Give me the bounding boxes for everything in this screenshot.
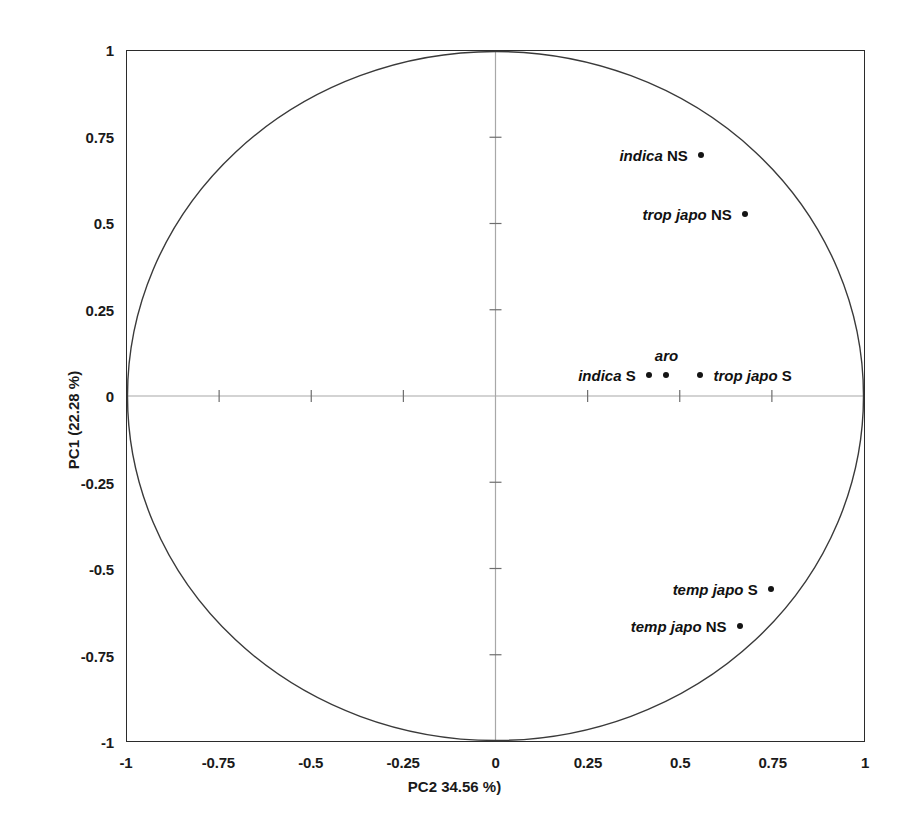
y-tick-label: 0.5	[94, 215, 114, 232]
x-tick-label: 1	[861, 754, 869, 771]
point-label-suffix: NS	[707, 205, 732, 222]
point-label-trop-japo-ns: trop japo NS	[643, 205, 732, 222]
point-label-indica-ns: indica NS	[619, 146, 687, 163]
data-point-temp-japo-ns	[737, 623, 743, 629]
point-label-taxon: aro	[655, 346, 678, 363]
point-label-suffix: S	[622, 366, 636, 383]
point-label-suffix: NS	[702, 618, 727, 635]
x-tick-label: -1	[120, 754, 133, 771]
y-tick-label: 0.75	[86, 128, 114, 145]
point-label-aro: aro	[655, 346, 678, 363]
x-tick-label: 0	[491, 754, 499, 771]
point-label-taxon: indica	[619, 146, 662, 163]
y-axis-title: PC1 (22.28 %)	[65, 370, 82, 468]
point-label-taxon: trop japo	[643, 205, 707, 222]
point-label-temp-japo-ns: temp japo NS	[631, 618, 727, 635]
point-label-suffix: S	[778, 366, 792, 383]
y-tick-label: 1	[106, 42, 114, 59]
y-tick-label: -1	[101, 734, 114, 751]
x-tick-label: 0.5	[670, 754, 690, 771]
point-label-trop-japo-s: trop japo S	[713, 366, 791, 383]
x-axis-title: PC2 34.56 %)	[0, 778, 909, 795]
point-label-suffix: S	[743, 581, 757, 598]
point-label-taxon: indica	[578, 366, 621, 383]
point-label-taxon: trop japo	[713, 366, 777, 383]
x-tick-label: -0.5	[298, 754, 323, 771]
point-label-indica-s: indica S	[578, 366, 636, 383]
y-tick-label: -0.75	[81, 647, 114, 664]
x-tick-label: 0.75	[758, 754, 786, 771]
pca-correlation-circle-figure: PC1 (22.28 %) 10.750.50.250-0.25-0.5-0.7…	[0, 0, 909, 839]
point-label-temp-japo-s: temp japo S	[673, 581, 758, 598]
plot-canvas	[127, 51, 864, 741]
data-point-trop-japo-ns	[742, 211, 748, 217]
point-label-suffix: NS	[663, 146, 688, 163]
data-point-indica-s	[646, 372, 652, 378]
x-tick-label: -0.75	[202, 754, 235, 771]
x-tick-label: -0.25	[387, 754, 420, 771]
data-point-indica-ns	[698, 152, 704, 158]
y-tick-label: 0	[106, 388, 114, 405]
y-tick-label: 0.25	[86, 301, 114, 318]
data-point-temp-japo-s	[768, 586, 774, 592]
point-label-taxon: temp japo	[631, 618, 702, 635]
y-tick-label: -0.5	[89, 561, 114, 578]
point-label-taxon: temp japo	[673, 581, 744, 598]
y-tick-label: -0.25	[81, 474, 114, 491]
plot-area: indica NStrop japo NSaroindica Strop jap…	[126, 50, 865, 742]
x-tick-label: 0.25	[574, 754, 602, 771]
